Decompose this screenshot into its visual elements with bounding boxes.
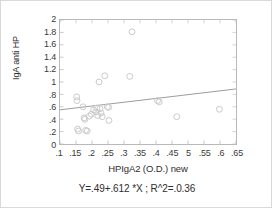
data-point: [76, 128, 82, 134]
data-point: [174, 114, 180, 120]
y-axis-tick-labels: 0.2.4.6.811.21.41.61.82: [31, 19, 56, 145]
y-tick-label: .2: [49, 128, 56, 137]
plot-svg: [60, 20, 236, 144]
data-point: [96, 79, 102, 85]
y-tick-label: .6: [49, 103, 56, 112]
x-tick-label: .2: [88, 148, 95, 158]
plot-area: [59, 19, 237, 145]
x-tick-label: .15: [69, 148, 81, 158]
data-point: [102, 73, 108, 79]
y-axis-title: IgA anti HP: [11, 15, 21, 101]
data-point: [129, 29, 135, 35]
x-tick-label: .65: [231, 148, 243, 158]
y-tick-label: 1.2: [44, 65, 56, 74]
data-point: [156, 99, 162, 105]
x-tick-label: .1: [55, 148, 62, 158]
y-tick-label: .4: [49, 115, 56, 124]
data-point: [127, 73, 133, 79]
x-tick-label: .55: [199, 148, 211, 158]
x-tick-label: 5: [186, 148, 191, 158]
x-tick-label: .4: [153, 148, 160, 158]
data-point: [106, 117, 112, 123]
x-tick-label: .25: [102, 148, 114, 158]
x-tick-label: .45: [166, 148, 178, 158]
y-tick-label: 1.8: [44, 27, 56, 36]
y-tick-label: 1.6: [44, 40, 56, 49]
x-tick-label: .6: [217, 148, 224, 158]
x-tick-label: .35: [134, 148, 146, 158]
x-axis-title: HPIgA2 (O.D.) new: [59, 163, 237, 174]
scatter-plot-figure: IgA anti HP 0.2.4.6.811.21.41.61.82 .1.1…: [0, 0, 272, 208]
y-tick-label: 2: [51, 15, 56, 24]
x-axis-tick-labels: .1.15.2.25.3.35.4.455.55.6.65: [59, 148, 237, 160]
y-tick-label: .8: [49, 90, 56, 99]
y-tick-label: 1.4: [44, 52, 56, 61]
y-tick-label: 1: [51, 78, 56, 87]
data-point: [74, 98, 80, 104]
x-tick-label: .3: [120, 148, 127, 158]
data-point: [216, 106, 222, 112]
regression-equation-caption: Y=.49+.612 *X ; R^2=.0.36: [37, 183, 237, 194]
